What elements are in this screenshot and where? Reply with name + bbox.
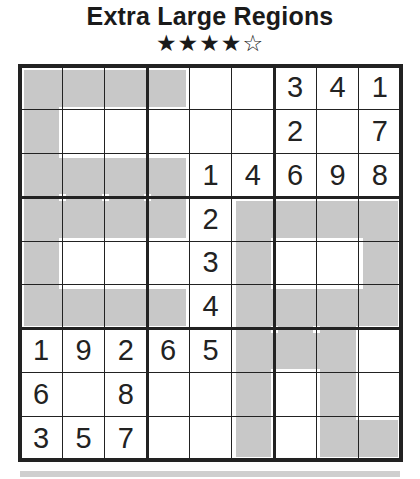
empty-cell[interactable] (359, 372, 401, 416)
empty-cell[interactable] (274, 241, 316, 285)
empty-cell[interactable] (105, 154, 147, 198)
empty-cell[interactable] (232, 416, 274, 460)
empty-cell[interactable] (147, 416, 189, 460)
empty-cell[interactable] (105, 285, 147, 329)
empty-cell[interactable] (62, 110, 104, 154)
given-cell: 7 (359, 110, 401, 154)
empty-cell[interactable] (316, 416, 358, 460)
empty-cell[interactable] (189, 372, 231, 416)
empty-cell[interactable] (232, 329, 274, 373)
empty-cell[interactable] (232, 372, 274, 416)
empty-cell[interactable] (20, 197, 62, 241)
empty-cell[interactable] (62, 285, 104, 329)
empty-cell[interactable] (232, 197, 274, 241)
empty-cell[interactable] (274, 285, 316, 329)
empty-cell[interactable] (20, 154, 62, 198)
empty-cell[interactable] (105, 241, 147, 285)
empty-cell[interactable] (359, 285, 401, 329)
given-cell: 6 (20, 372, 62, 416)
given-cell: 3 (189, 241, 231, 285)
empty-cell[interactable] (316, 372, 358, 416)
empty-cell[interactable] (316, 285, 358, 329)
empty-cell[interactable] (232, 110, 274, 154)
empty-cell[interactable] (189, 416, 231, 460)
empty-cell[interactable] (62, 154, 104, 198)
empty-cell[interactable] (105, 197, 147, 241)
empty-cell[interactable] (147, 154, 189, 198)
given-cell: 4 (316, 66, 358, 110)
given-cell: 5 (62, 416, 104, 460)
empty-cell[interactable] (316, 241, 358, 285)
empty-cell[interactable] (274, 197, 316, 241)
empty-cell[interactable] (105, 110, 147, 154)
empty-cell[interactable] (20, 241, 62, 285)
empty-cell[interactable] (20, 285, 62, 329)
given-cell: 1 (20, 329, 62, 373)
empty-cell[interactable] (359, 416, 401, 460)
empty-cell[interactable] (359, 241, 401, 285)
given-cell: 2 (274, 110, 316, 154)
given-cell: 8 (105, 372, 147, 416)
given-cell: 1 (359, 66, 401, 110)
empty-cell[interactable] (232, 241, 274, 285)
sudoku-grid: 34127146982341926568357 (20, 66, 401, 460)
empty-cell[interactable] (232, 285, 274, 329)
empty-cell[interactable] (316, 110, 358, 154)
footer-divider (20, 471, 400, 477)
empty-cell[interactable] (62, 66, 104, 110)
given-cell: 3 (274, 66, 316, 110)
empty-cell[interactable] (62, 372, 104, 416)
given-cell: 9 (62, 329, 104, 373)
given-cell: 6 (147, 329, 189, 373)
empty-cell[interactable] (62, 197, 104, 241)
empty-cell[interactable] (274, 372, 316, 416)
empty-cell[interactable] (274, 416, 316, 460)
empty-cell[interactable] (189, 66, 231, 110)
given-cell: 2 (189, 197, 231, 241)
empty-cell[interactable] (147, 285, 189, 329)
given-cell: 3 (20, 416, 62, 460)
empty-cell[interactable] (232, 66, 274, 110)
empty-cell[interactable] (274, 329, 316, 373)
puzzle-title: Extra Large Regions (0, 2, 420, 31)
given-cell: 1 (189, 154, 231, 198)
empty-cell[interactable] (105, 66, 147, 110)
given-cell: 4 (232, 154, 274, 198)
empty-cell[interactable] (316, 197, 358, 241)
given-cell: 4 (189, 285, 231, 329)
empty-cell[interactable] (20, 66, 62, 110)
empty-cell[interactable] (189, 110, 231, 154)
given-cell: 7 (105, 416, 147, 460)
given-cell: 5 (189, 329, 231, 373)
empty-cell[interactable] (359, 197, 401, 241)
given-cell: 2 (105, 329, 147, 373)
difficulty-stars: ★★★★☆ (0, 30, 420, 56)
empty-cell[interactable] (147, 372, 189, 416)
given-cell: 6 (274, 154, 316, 198)
empty-cell[interactable] (316, 329, 358, 373)
empty-cell[interactable] (147, 197, 189, 241)
empty-cell[interactable] (20, 110, 62, 154)
given-cell: 8 (359, 154, 401, 198)
empty-cell[interactable] (147, 241, 189, 285)
empty-cell[interactable] (359, 329, 401, 373)
empty-cell[interactable] (147, 66, 189, 110)
empty-cell[interactable] (147, 110, 189, 154)
empty-cell[interactable] (62, 241, 104, 285)
given-cell: 9 (316, 154, 358, 198)
